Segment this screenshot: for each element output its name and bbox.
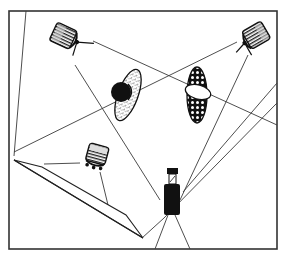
camera-viewfinder-icon (167, 168, 178, 174)
camera-body-icon (164, 184, 180, 215)
lighting-diagram (0, 0, 286, 259)
